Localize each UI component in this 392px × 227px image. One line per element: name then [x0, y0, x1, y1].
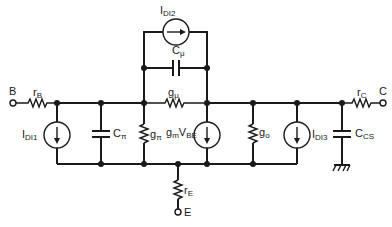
- gmu-label: gμ: [168, 86, 179, 100]
- current-source-gmVbe: gmVBE: [166, 103, 220, 164]
- gmVbe-label: gmVBE: [166, 126, 197, 140]
- IDI3-label: IDI3: [312, 128, 328, 142]
- collector-terminal-label: C: [379, 85, 387, 97]
- go-label: go: [259, 126, 270, 140]
- rC-label: rC: [357, 86, 367, 100]
- gpi-label: gπ: [150, 128, 162, 142]
- capacitor-Cpi: Cπ: [92, 103, 127, 164]
- current-source-IDI1: IDI1: [22, 103, 70, 164]
- conductance-go: go: [249, 103, 270, 164]
- conductance-gpi: gπ: [140, 103, 162, 164]
- junction-dots: [54, 65, 345, 167]
- IDI1-label: IDI1: [22, 128, 38, 142]
- resistor-rE: rE: [174, 164, 193, 209]
- collector-terminal: C: [379, 85, 387, 106]
- rE-label: rE: [184, 184, 193, 198]
- conductance-gmu: gμ: [144, 86, 207, 107]
- Cpi-label: Cπ: [113, 127, 127, 141]
- ground-icon: [333, 165, 350, 171]
- base-terminal: B: [9, 85, 16, 106]
- IDI2-label: IDI2: [160, 4, 176, 18]
- current-source-IDI2: IDI2: [160, 4, 189, 45]
- rB-label: rB: [33, 86, 42, 100]
- capacitor-Cmu: Cμ: [144, 44, 207, 76]
- circuit-diagram: B rB gμ IDI2 Cμ IDI1: [0, 0, 392, 227]
- resistor-rB: rB: [16, 86, 57, 107]
- emitter-terminal-label: E: [184, 206, 191, 218]
- capacitor-Ccs: CCS: [333, 103, 374, 165]
- current-source-IDI3: IDI3: [284, 103, 328, 164]
- base-terminal-label: B: [9, 85, 16, 97]
- Cmu-label: Cμ: [172, 44, 185, 58]
- resistor-rC: rC: [342, 86, 380, 107]
- Ccs-label: CCS: [355, 127, 374, 141]
